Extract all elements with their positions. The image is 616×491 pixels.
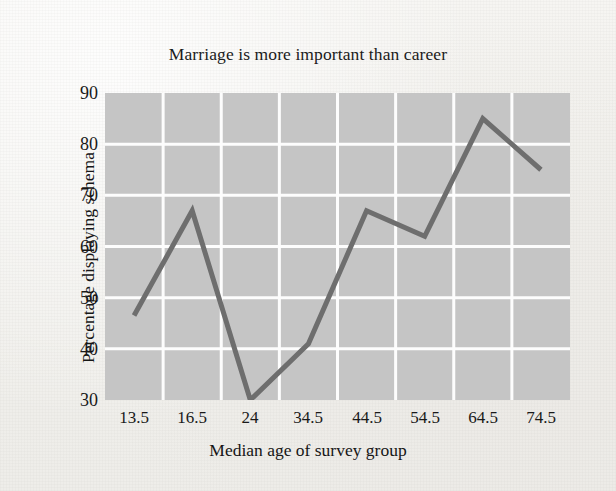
x-tick-label-64-5: 64.5	[468, 408, 498, 428]
chart-title: Marriage is more important than career	[0, 44, 616, 65]
x-axis-label: Median age of survey group	[0, 440, 616, 461]
x-tick-label-74-5: 74.5	[526, 408, 556, 428]
x-tick-label-13-5: 13.5	[119, 408, 149, 428]
x-tick-label-34-5: 34.5	[293, 408, 323, 428]
y-tick-label-90: 90	[58, 83, 98, 104]
y-axis-label: Percentage displaying schema	[78, 108, 99, 408]
x-tick-label-44-5: 44.5	[352, 408, 382, 428]
x-tick-label-24: 24	[242, 408, 259, 428]
chart-svg	[105, 93, 570, 400]
x-tick-label-54-5: 54.5	[410, 408, 440, 428]
x-tick-label-16-5: 16.5	[177, 408, 207, 428]
plot-area	[105, 93, 570, 400]
